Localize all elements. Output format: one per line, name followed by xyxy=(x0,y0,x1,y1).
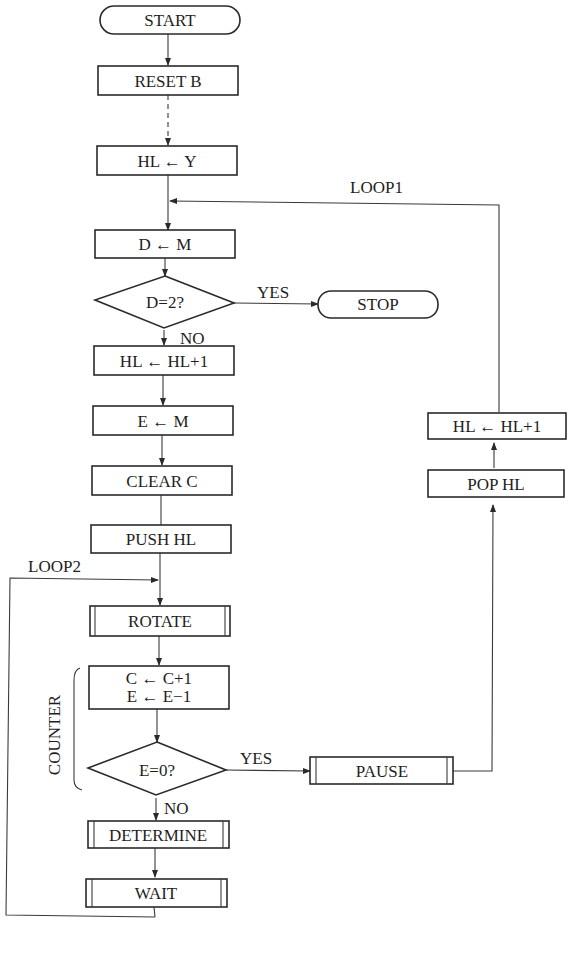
wait-subroutine: WAIT xyxy=(86,879,227,907)
determine-subroutine: DETERMINE xyxy=(88,821,229,848)
pause-label: PAUSE xyxy=(356,762,408,781)
hl-y-label: HL ← Y xyxy=(137,152,196,171)
pop-hl-process: POP HL xyxy=(428,470,564,497)
counter-process: C ← C+1 E ← E−1 xyxy=(89,666,229,709)
hl-inc-process-1: HL ← HL+1 xyxy=(94,346,234,375)
hl-inc-label-1: HL ← HL+1 xyxy=(120,352,208,371)
d-eq-2-decision: D=2? xyxy=(95,276,234,328)
push-hl-label: PUSH HL xyxy=(126,530,196,549)
loop2-label: LOOP2 xyxy=(28,557,81,576)
d-m-label: D ← M xyxy=(139,235,192,254)
loop1-label: LOOP1 xyxy=(350,178,403,197)
start-label: START xyxy=(144,11,196,30)
hl-y-process: HL ← Y xyxy=(97,146,237,175)
hl-inc-label-2: HL ← HL+1 xyxy=(453,417,541,436)
start-terminal: START xyxy=(100,6,240,34)
stop-label: STOP xyxy=(357,295,398,314)
counter-bracket xyxy=(74,668,82,790)
e-m-process: E ← M xyxy=(93,406,233,435)
rotate-label: ROTATE xyxy=(128,612,192,631)
d-eq-2-label: D=2? xyxy=(146,293,184,312)
stop-terminal: STOP xyxy=(318,291,438,318)
no-label-2: NO xyxy=(164,799,189,818)
determine-label: DETERMINE xyxy=(109,826,207,845)
wait-label: WAIT xyxy=(135,884,178,903)
d-m-process: D ← M xyxy=(95,230,235,258)
c-inc-label: C ← C+1 xyxy=(126,669,192,688)
e-m-label: E ← M xyxy=(138,412,189,431)
yes-label-1: YES xyxy=(257,283,289,302)
reset-b-label: RESET B xyxy=(134,72,201,91)
flowchart: START RESET B HL ← Y LOOP1 D ← M D=2? YE… xyxy=(0,0,571,960)
hl-inc-process-2: HL ← HL+1 xyxy=(428,413,566,439)
reset-b-process: RESET B xyxy=(98,66,238,95)
e-eq-0-decision: E=0? xyxy=(88,742,226,795)
pause-subroutine: PAUSE xyxy=(310,757,453,784)
no-label-1: NO xyxy=(180,329,205,348)
pop-hl-label: POP HL xyxy=(467,475,524,494)
clear-c-process: CLEAR C xyxy=(92,466,232,495)
e-dec-label: E ← E−1 xyxy=(127,687,191,706)
e-eq-0-label: E=0? xyxy=(139,761,175,780)
counter-label: COUNTER xyxy=(45,694,64,775)
rotate-subroutine: ROTATE xyxy=(90,606,230,636)
yes-label-2: YES xyxy=(240,749,272,768)
push-hl-process: PUSH HL xyxy=(91,525,231,553)
clear-c-label: CLEAR C xyxy=(126,472,197,491)
